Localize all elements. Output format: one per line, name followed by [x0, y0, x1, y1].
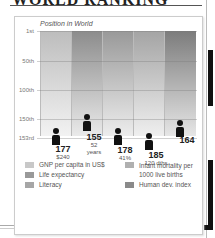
page-edge-line — [0, 228, 15, 229]
column-literacy — [102, 31, 134, 136]
legend-item: Literacy — [25, 181, 62, 188]
legend-item: Human dev. index — [125, 181, 191, 188]
page-edge-bar — [208, 50, 213, 106]
person-icon — [112, 128, 124, 145]
legend-swatch — [125, 162, 134, 168]
value-label-human-dev-index: 164 — [172, 135, 202, 145]
gridline — [37, 119, 197, 120]
title-divider — [10, 5, 202, 6]
y-tick: 50th — [22, 58, 34, 64]
y-tick: 100th — [19, 87, 34, 93]
person-icon — [143, 133, 155, 150]
page-edge-bar — [208, 160, 213, 230]
column-gnp — [40, 31, 72, 136]
column-infant-mortality — [133, 31, 165, 136]
person-icon — [50, 128, 62, 145]
value-label-gnp: 177 $240 — [48, 144, 78, 161]
gridline — [37, 61, 197, 62]
plot-area: 1st 50th 100th 150th 153rd — [40, 31, 197, 136]
page-edge-foot — [204, 225, 213, 230]
page-edge-line — [206, 0, 207, 238]
gridline — [37, 90, 197, 91]
legend-item: GNP per capita in US$ — [25, 161, 105, 168]
page-edge-line — [0, 225, 15, 226]
gridline — [37, 31, 197, 32]
legend-swatch — [25, 172, 34, 178]
value-label-life-expectancy: 155 52 years — [79, 132, 109, 156]
legend-item: Infant mortality per 1000 live births — [125, 161, 195, 179]
legend-item: Life expectancy — [25, 171, 84, 178]
y-tick: 150th — [19, 116, 34, 122]
y-tick: 153rd — [19, 135, 34, 141]
legend-swatch — [25, 162, 34, 168]
value-label-literacy: 178 41% — [110, 145, 140, 162]
person-icon — [81, 114, 93, 131]
legend-swatch — [25, 182, 34, 188]
chart-card: Position in World 1st 50th 100th 150th 1… — [14, 16, 203, 235]
chart-title: Position in World — [40, 20, 93, 27]
y-tick: 1st — [26, 28, 34, 34]
legend-swatch — [125, 182, 134, 188]
